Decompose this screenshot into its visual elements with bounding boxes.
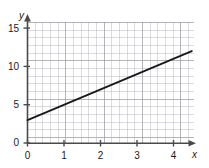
x-axis-arrow-icon [189,140,197,147]
y-tick-label-15: 15 [1,23,19,34]
x-tick-label-2: 2 [92,150,110,161]
data-line-series-1 [28,51,192,120]
y-tick-label-5: 5 [1,99,19,110]
x-tick-label-1: 1 [55,150,73,161]
x-axis-label: x [192,149,197,160]
x-tick-label-0: 0 [19,150,37,161]
x-tick-label-4: 4 [165,150,183,161]
x-axis [27,140,196,147]
x-tick-label-3: 3 [128,150,146,161]
y-axis-label: y [19,10,24,21]
chart-axes-and-data [0,0,209,168]
y-tick-label-0: 0 [1,137,19,148]
chart-figure: 15 10 5 0 0 1 2 3 4 y x [0,0,209,168]
y-axis-arrow-icon [24,14,31,22]
y-tick-label-10: 10 [1,61,19,72]
y-axis [24,14,31,144]
